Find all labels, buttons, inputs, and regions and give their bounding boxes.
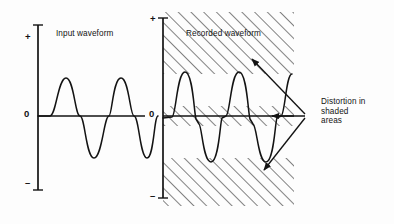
callout-line-2: shaded <box>321 107 348 116</box>
callout-line-1: Distortion in <box>321 97 366 106</box>
input-panel-title: Input waveform <box>56 29 113 39</box>
input-axis-negative-mark: – <box>25 177 30 188</box>
input-waveform-trace <box>38 78 158 158</box>
recorded-axis-positive-mark: + <box>150 13 156 24</box>
recorded-panel-title: Recorded waveform <box>186 29 261 39</box>
input-panel-axes <box>33 25 145 190</box>
shaded-region-lower <box>163 158 294 206</box>
recorded-axis-negative-mark: – <box>150 190 155 201</box>
recorded-axis-zero-mark: 0 <box>149 108 154 119</box>
shaded-region-upper <box>163 12 294 74</box>
input-axis-zero-mark: 0 <box>24 108 29 119</box>
input-axis-positive-mark: + <box>25 31 31 42</box>
distortion-callout-label: Distortion inshadedareas <box>321 97 366 126</box>
waveform-distortion-diagram: Input waveform Recorded waveform + 0 – +… <box>0 0 394 224</box>
callout-line-3: areas <box>321 116 342 125</box>
